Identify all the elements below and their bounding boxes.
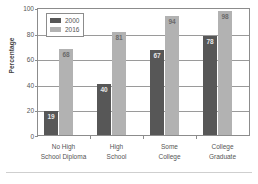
x-axis-tick	[196, 135, 197, 139]
x-tick-label-group: High School	[87, 142, 146, 162]
y-tick-label: 80	[14, 30, 34, 37]
legend-swatch-icon	[50, 27, 61, 32]
x-tick-label-line2: College	[140, 152, 199, 162]
bar-group: 67 94	[144, 9, 197, 135]
legend-swatch-icon	[50, 18, 61, 23]
x-tick-label-group: Some College	[140, 142, 199, 162]
y-axis-tick-labels: 0 20 40 60 80 100	[14, 8, 34, 136]
bar-value-label: 98	[218, 13, 232, 21]
bar-value-label: 81	[112, 34, 126, 42]
bar-2016[interactable]: 68	[59, 49, 73, 135]
bar-value-label: 94	[165, 18, 179, 26]
x-tick-label-group: College Graduate	[193, 142, 252, 162]
x-tick-label-line1: Some	[161, 143, 178, 150]
y-tick-label: 100	[14, 5, 34, 12]
x-tick-label-line1: High	[110, 143, 123, 150]
y-tick-label: 20	[14, 107, 34, 114]
x-tick-label-line2: Graduate	[193, 152, 252, 162]
x-axis-tick-labels: No High School Diploma High School Some …	[37, 142, 250, 168]
x-axis-tick	[143, 135, 144, 139]
legend-label: 2016	[65, 25, 79, 34]
bar-value-label: 78	[203, 38, 217, 46]
bar-2000[interactable]: 78	[203, 36, 217, 135]
bar-group: 78 98	[197, 9, 250, 135]
legend-label: 2000	[65, 16, 79, 25]
plot-area: 19 68 40 81 67 94	[37, 8, 250, 136]
y-tick-label: 60	[14, 56, 34, 63]
bar-2016[interactable]: 98	[218, 11, 232, 135]
x-tick-label-line1: No High	[52, 143, 75, 150]
x-tick-label-line2: School	[87, 152, 146, 162]
bar-2000[interactable]: 40	[97, 84, 111, 135]
legend-item-2016[interactable]: 2016	[50, 25, 79, 34]
bar-2000[interactable]: 19	[44, 111, 58, 135]
bar-value-label: 19	[44, 113, 58, 121]
footer-divider	[6, 172, 252, 173]
bar-2000[interactable]: 67	[150, 50, 164, 135]
chart-page: Percentage 0 20 40 60 80 100 19 68	[0, 0, 258, 184]
y-tick-label: 0	[14, 133, 34, 140]
bar-value-label: 68	[59, 51, 73, 59]
bar-value-label: 40	[97, 86, 111, 94]
x-axis-tick	[90, 135, 91, 139]
x-tick-label-line1: College	[211, 143, 233, 150]
y-tick-mark	[35, 136, 38, 137]
bar-value-label: 67	[150, 52, 164, 60]
bar-2016[interactable]: 81	[112, 32, 126, 135]
bar-2016[interactable]: 94	[165, 16, 179, 135]
bar-group: 40 81	[91, 9, 144, 135]
y-tick-label: 40	[14, 81, 34, 88]
legend-item-2000[interactable]: 2000	[50, 16, 79, 25]
chart-legend: 2000 2016	[46, 13, 84, 37]
